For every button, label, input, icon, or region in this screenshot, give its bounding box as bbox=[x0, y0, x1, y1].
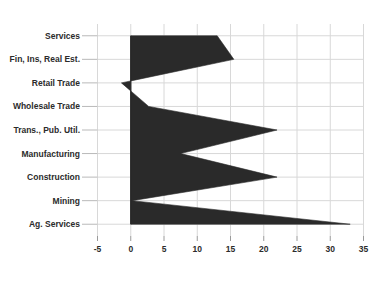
category-label: Construction bbox=[27, 172, 80, 182]
value-tick-label: 15 bbox=[226, 244, 235, 254]
category-label: Trans., Pub. Util. bbox=[13, 125, 80, 135]
category-label: Ag. Services bbox=[29, 219, 80, 229]
chart-plot-area bbox=[0, 0, 384, 281]
value-tick-label: 5 bbox=[162, 244, 167, 254]
category-label: Mining bbox=[53, 196, 80, 206]
category-label: Manufacturing bbox=[21, 149, 80, 159]
value-tick-label: 0 bbox=[128, 244, 133, 254]
value-tick-label: -5 bbox=[94, 244, 102, 254]
category-label: Retail Trade bbox=[32, 78, 80, 88]
category-label: Services bbox=[45, 31, 80, 41]
chart-container: ServicesFin, Ins, Real Est.Retail TradeW… bbox=[0, 0, 384, 281]
value-tick-label: 25 bbox=[292, 244, 301, 254]
value-tick-label: 20 bbox=[259, 244, 268, 254]
category-label: Wholesale Trade bbox=[13, 101, 80, 111]
category-label: Fin, Ins, Real Est. bbox=[10, 54, 80, 64]
value-tick-label: 35 bbox=[359, 244, 368, 254]
value-tick-label: 10 bbox=[193, 244, 202, 254]
value-tick-label: 30 bbox=[326, 244, 335, 254]
